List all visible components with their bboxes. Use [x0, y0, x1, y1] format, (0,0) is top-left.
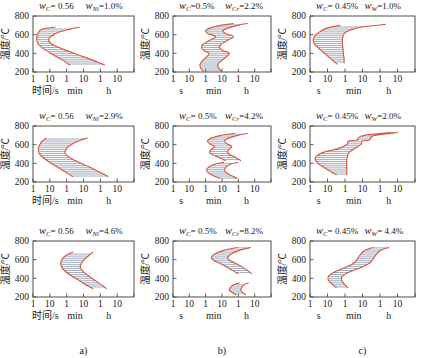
y-tick-label: 400 — [155, 49, 170, 59]
x-tick-label: 1 — [203, 74, 208, 84]
panel-title-left: wC= 0.45% — [316, 225, 359, 237]
chart-panel-c1: wC= 0.45%wW=1.0%200400600800温度/℃11011011… — [277, 0, 421, 110]
x-unit-label: 时间/s — [32, 309, 59, 321]
y-tick-label: 400 — [155, 159, 170, 169]
panel-title-left: wC= 0.56 — [39, 225, 74, 237]
x-tick-label: 10 — [79, 184, 89, 194]
y-axis-label: 温度/℃ — [140, 28, 151, 61]
y-tick-label: 600 — [15, 30, 30, 40]
x-tick-label: 1 — [378, 74, 383, 84]
y-axis-label: 温度/℃ — [140, 138, 151, 171]
x-tick-label: 1 — [64, 74, 69, 84]
panel-svg-b2: wC= 0.5%wCr=4.2%200400600800温度/℃11011011… — [140, 110, 277, 225]
x-unit-label: min — [67, 85, 83, 96]
x-unit-label: h — [244, 310, 249, 321]
x-tick-label: 10 — [393, 184, 403, 194]
chart-panel-c2: wC= 0.45%wW=2.0%200400600800温度/℃11011011… — [277, 110, 421, 225]
x-tick-label: 10 — [323, 74, 333, 84]
x-tick-label: 1 — [343, 299, 348, 309]
x-tick-label: 1 — [203, 299, 208, 309]
panel-title-right: wNi=2.9% — [86, 110, 124, 122]
y-tick-label: 200 — [155, 67, 170, 77]
y-tick-label: 200 — [15, 67, 30, 77]
x-tick-label: 10 — [45, 299, 55, 309]
x-tick-label: 10 — [250, 74, 260, 84]
x-tick-label: 10 — [358, 299, 368, 309]
svg-text:wCr=2.2%: wCr=2.2% — [225, 0, 264, 12]
y-tick-label: 800 — [155, 236, 170, 246]
x-tick-label: 1 — [64, 184, 69, 194]
y-tick-label: 600 — [292, 255, 307, 265]
svg-text:wC= 0.5%: wC= 0.5% — [179, 110, 217, 122]
x-tick-label: 1 — [98, 74, 103, 84]
x-tick-label: 10 — [323, 184, 333, 194]
svg-text:wW= 4.4%: wW= 4.4% — [365, 225, 404, 237]
x-tick-label: 1 — [31, 299, 36, 309]
x-tick-label: 1 — [64, 299, 69, 309]
panel-title-left: wC= 0.56 — [39, 110, 74, 122]
panel-title-right: wCr=4.2% — [225, 110, 264, 122]
x-tick-label: 1 — [236, 184, 241, 194]
svg-text:wC= 0.56: wC= 0.56 — [39, 110, 74, 122]
panel-svg-c3: wC= 0.45%wW= 4.4%200400600800温度/℃1101101… — [277, 225, 421, 358]
x-tick-label: 10 — [217, 184, 227, 194]
y-tick-label: 800 — [292, 236, 307, 246]
y-axis-label: 温度/℃ — [277, 28, 288, 61]
x-unit-label: min — [206, 195, 222, 206]
x-tick-label: 1 — [203, 184, 208, 194]
x-unit-label: 时间/s — [32, 84, 59, 96]
panel-title-left: wC= 0.5% — [179, 225, 217, 237]
x-tick-label: 1 — [236, 299, 241, 309]
y-tick-label: 800 — [15, 11, 30, 21]
y-axis-label: 温度/℃ — [0, 253, 11, 286]
x-unit-label: h — [106, 85, 111, 96]
svg-text:wC= 0.45%: wC= 0.45% — [316, 0, 359, 12]
x-tick-label: 1 — [308, 299, 313, 309]
y-tick-label: 600 — [15, 255, 30, 265]
y-tick-label: 400 — [155, 274, 170, 284]
chart-panel-a2: wC= 0.56wNi=2.9%200400600800温度/℃11011011… — [0, 110, 140, 225]
x-tick-label: 10 — [45, 184, 55, 194]
plot-frame — [310, 126, 415, 182]
x-tick-label: 10 — [217, 74, 227, 84]
y-tick-label: 600 — [155, 255, 170, 265]
plot-frame — [310, 16, 415, 72]
svg-text:wC= 0.5%: wC= 0.5% — [179, 225, 217, 237]
chart-panel-a3: wC= 0.56wNi=4.6%200400600800温度/℃11011011… — [0, 225, 140, 358]
panel-title-right: wW=1.0% — [365, 0, 402, 12]
y-tick-label: 600 — [292, 140, 307, 150]
panel-title-left: wC= 0.45% — [316, 0, 359, 12]
svg-text:wC= 0.56: wC= 0.56 — [39, 0, 74, 12]
x-unit-label: h — [386, 85, 391, 96]
x-unit-label: min — [67, 310, 83, 321]
x-unit-label: h — [386, 310, 391, 321]
x-unit-label: min — [206, 85, 222, 96]
x-unit-label: s — [317, 195, 321, 206]
x-tick-label: 10 — [250, 299, 260, 309]
x-tick-label: 1 — [343, 74, 348, 84]
y-tick-label: 600 — [15, 140, 30, 150]
chart-panel-c3: wC= 0.45%wW= 4.4%200400600800温度/℃1101101… — [277, 225, 421, 358]
x-tick-label: 1 — [31, 184, 36, 194]
y-tick-label: 400 — [292, 159, 307, 169]
x-tick-label: 10 — [250, 184, 260, 194]
x-tick-label: 10 — [185, 184, 195, 194]
x-tick-label: 10 — [112, 74, 122, 84]
x-unit-label: s — [179, 195, 183, 206]
y-tick-label: 200 — [155, 292, 170, 302]
x-tick-label: 10 — [79, 74, 89, 84]
x-tick-label: 1 — [343, 184, 348, 194]
panel-title-right: wNi=4.6% — [86, 225, 124, 237]
chart-panel-b3: wC= 0.5%wCr=8.2%200400600800温度/℃11011011… — [140, 225, 277, 358]
panel-title-left: wC= 0.5% — [179, 110, 217, 122]
y-tick-label: 600 — [155, 30, 170, 40]
y-tick-label: 200 — [292, 292, 307, 302]
y-axis-label: 温度/℃ — [0, 28, 11, 61]
x-tick-label: 10 — [185, 299, 195, 309]
x-tick-label: 10 — [217, 299, 227, 309]
x-unit-label: h — [244, 195, 249, 206]
x-unit-label: min — [346, 310, 362, 321]
panel-svg-b3: wC= 0.5%wCr=8.2%200400600800温度/℃11011011… — [140, 225, 277, 358]
x-unit-label: h — [386, 195, 391, 206]
panel-title-left: wC= 0.45% — [316, 110, 359, 122]
